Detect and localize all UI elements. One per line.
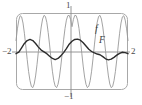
x-axis-min-tick-label: −2	[2, 47, 12, 56]
y-axis-max-tick-label: 1	[66, 1, 71, 10]
curve-F	[16, 39, 128, 60]
curve-f-label: f	[95, 25, 98, 35]
function-plot-svg	[0, 0, 142, 105]
x-axis-max-tick-label: 2	[131, 47, 136, 56]
curve-F-label: F	[99, 36, 105, 46]
curve-f	[16, 15, 128, 87]
figure-container: −2 2 1 −1 f F	[0, 0, 142, 105]
y-axis-min-tick-label: −1	[64, 92, 74, 101]
